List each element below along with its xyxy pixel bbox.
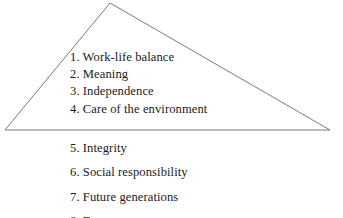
list-item-text: 1. Work-life balance xyxy=(70,50,174,64)
figure-canvas: 1. Work-life balance 2. Meaning 3. Indep… xyxy=(0,0,343,218)
list-item: 4. Care of the environment xyxy=(70,101,207,118)
list-item-text: 2. Meaning xyxy=(70,67,128,81)
list-item-text: 5. Integrity xyxy=(70,141,127,155)
list-item-clipped: 8. D xyxy=(70,209,188,218)
list-item: 1. Work-life balance xyxy=(70,49,207,66)
list-item: 5. Integrity xyxy=(70,136,188,160)
lower-values-list: 5. Integrity 6. Social responsibility 7.… xyxy=(70,136,188,218)
list-item-text: 8. D xyxy=(70,214,92,218)
list-item-text: 3. Independence xyxy=(70,84,154,98)
upper-values-list: 1. Work-life balance 2. Meaning 3. Indep… xyxy=(70,49,207,118)
list-item-text: 6. Social responsibility xyxy=(70,165,188,179)
list-item: 7. Future generations xyxy=(70,185,188,209)
list-item: 3. Independence xyxy=(70,83,207,100)
list-item-text: 7. Future generations xyxy=(70,190,178,204)
list-item-text: 4. Care of the environment xyxy=(70,102,207,116)
list-item: 6. Social responsibility xyxy=(70,160,188,184)
list-item: 2. Meaning xyxy=(70,66,207,83)
